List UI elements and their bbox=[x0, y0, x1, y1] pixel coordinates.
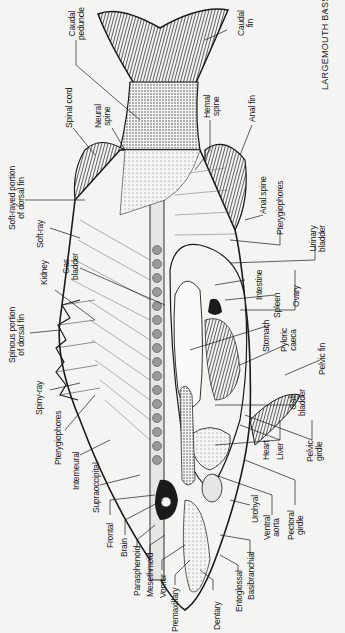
label-intestine: Intestine bbox=[255, 270, 264, 300]
label-pterygiophores-bottom: Pterygiophores bbox=[54, 411, 63, 465]
label-premaxillary: Premaxillary bbox=[171, 588, 180, 632]
label-dentary: Dentary bbox=[213, 602, 222, 630]
label-urohyal: Urohyal bbox=[251, 495, 260, 523]
label-frontal: Frontal bbox=[106, 523, 115, 548]
label-entoglossal: Entoglossal bbox=[235, 570, 244, 612]
label-anal-spine: Anal spine bbox=[259, 176, 268, 214]
label-pelvic-girdle: Pelvic girdle bbox=[306, 441, 324, 462]
label-soft-ray: Soft-ray bbox=[36, 220, 45, 248]
fish-anatomy-diagram: Caudal fin Caudal peduncle Spinal cord N… bbox=[0, 0, 345, 633]
label-ventral-aorta: Ventral aorta bbox=[263, 515, 281, 540]
label-soft-rayed-dorsal: Soft-rayed portion of dorsal fin bbox=[8, 166, 26, 230]
label-heart: Heart bbox=[262, 440, 271, 460]
label-pectoral-girdle: Pectoral girdle bbox=[287, 510, 305, 540]
sex-symbol: ♀ bbox=[320, 7, 330, 14]
label-liver: Liver bbox=[276, 443, 285, 460]
label-vomer: Vomer bbox=[159, 574, 168, 598]
label-spleen: Spleen bbox=[273, 293, 282, 318]
label-pelvic-fin: Pelvic fin bbox=[318, 343, 327, 375]
label-basibranchial: Basibranchial bbox=[247, 552, 256, 600]
label-supraoccipital: Supraoccipital bbox=[92, 462, 101, 513]
label-parasphenoid: Parasphenoid bbox=[133, 546, 142, 596]
label-ovary: Ovary bbox=[292, 285, 301, 307]
label-gall-bladder: Gall bladder bbox=[289, 389, 307, 416]
label-neural-spine: Neural spine bbox=[94, 104, 112, 128]
label-gas-bladder: Gas bladder bbox=[62, 253, 80, 280]
label-pyloric-caeca: Pyloric caeca bbox=[280, 328, 298, 352]
label-pterygiophores-top: Pterygiophores bbox=[276, 181, 285, 235]
vertebral-column bbox=[150, 190, 164, 580]
label-hemal-spine: Hemal spine bbox=[203, 94, 221, 118]
label-caudal-peduncle: Caudal peduncle bbox=[68, 7, 86, 40]
label-urinary-bladder: Urinary bladder bbox=[309, 225, 327, 252]
label-mesethmoid: Mesethmoid bbox=[146, 553, 155, 597]
label-brain: Brain bbox=[120, 538, 129, 557]
label-stomach: Stomach bbox=[262, 320, 271, 352]
label-spinous-dorsal: Spinous portion of dorsal fin bbox=[8, 307, 26, 363]
label-interneural: Interneural bbox=[72, 452, 81, 490]
label-anal-fin: Anal fin bbox=[248, 95, 257, 122]
label-kidney: Kidney bbox=[40, 260, 49, 285]
caudal-fin bbox=[98, 9, 228, 85]
label-caudal-fin: Caudal fin bbox=[237, 10, 255, 36]
caudal-peduncle bbox=[120, 82, 200, 150]
label-spiny-ray: Spiny-ray bbox=[35, 381, 44, 415]
label-spinal-cord: Spinal cord bbox=[65, 88, 74, 128]
